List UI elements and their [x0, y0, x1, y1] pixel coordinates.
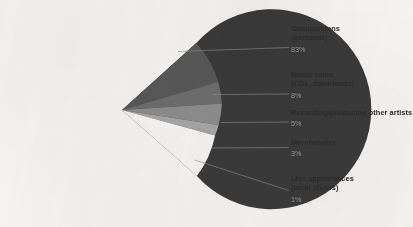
callout-label-live-appearances: Live appearances (local shows) 1% [291, 174, 354, 204]
callout-value-merchandise: 3% [291, 149, 337, 158]
callout-title-commissions: Commissions [291, 24, 340, 33]
callout-value-live-appearances: 1% [291, 195, 354, 204]
callout-title-music-sales: Music sales [291, 70, 354, 79]
callout-subtitle-commissions: (personal) [291, 33, 340, 42]
callout-subtitle-music-sales: (CDs, downloads) [291, 79, 354, 88]
callout-value-commissions: 83% [291, 45, 340, 54]
callout-title-merchandise: Merchandise [291, 138, 337, 147]
callout-label-music-sales: Music sales (CDs, downloads) 8% [291, 70, 354, 100]
callout-value-music-sales: 8% [291, 91, 354, 100]
callout-title-live-appearances: Live appearances [291, 174, 354, 183]
callout-title-recording-producing: Recording/producing other artists [291, 108, 412, 117]
callout-subtitle-live-appearances: (local shows) [291, 183, 354, 192]
callout-value-recording-producing: 5% [291, 119, 412, 128]
pie-chart-figure: Commissions (personal) 83% Music sales (… [0, 0, 413, 227]
callout-label-recording-producing: Recording/producing other artists 5% [291, 108, 412, 129]
callout-label-commissions: Commissions (personal) 83% [291, 24, 340, 54]
callout-label-merchandise: Merchandise 3% [291, 138, 337, 159]
